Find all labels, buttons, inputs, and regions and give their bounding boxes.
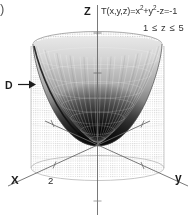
- axis-label-z: Z: [84, 6, 91, 17]
- axis-label-x: X: [11, 175, 19, 187]
- axis-label-y: y: [175, 172, 182, 184]
- equation-mid: +y: [143, 6, 153, 16]
- paraboloid-3d-plot: [0, 0, 195, 223]
- equation-label: T(x,y,z)=x2+y2-z=-1: [101, 7, 177, 16]
- figure-canvas: ) Z T(x,y,z)=x2+y2-z=-1 1 ≤ z ≤ 5 D X y …: [0, 0, 195, 223]
- x-tick-label-2: 2: [48, 176, 53, 186]
- equation-prefix: T(x,y,z)=x: [101, 6, 140, 16]
- figure-corner-mark: ): [0, 2, 4, 15]
- region-label-d: D: [5, 80, 13, 91]
- equation-suffix: -z=-1: [156, 6, 177, 16]
- z-range-label: 1 ≤ z ≤ 5: [143, 23, 184, 32]
